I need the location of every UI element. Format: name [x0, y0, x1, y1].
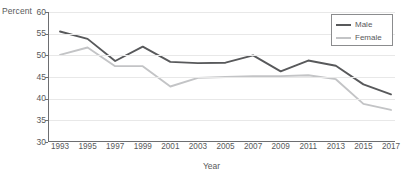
y-axis-tick-label: 40	[0, 94, 46, 103]
x-axis-tick-label: 2009	[272, 143, 290, 151]
legend-swatch-icon	[336, 24, 351, 26]
legend-label: Female	[355, 34, 382, 42]
legend-item[interactable]: Male	[336, 18, 388, 31]
legend: MaleFemale	[331, 14, 393, 46]
line-chart: Percent 60555045403530 19931995199719992…	[0, 0, 407, 181]
x-axis-tick-label: 2017	[382, 143, 400, 151]
x-axis-tick-label: 2003	[189, 143, 207, 151]
x-axis-tick-label: 2015	[354, 143, 372, 151]
legend-label: Male	[355, 21, 372, 29]
y-axis-tickmark	[45, 34, 48, 35]
y-axis-tick-label: 60	[0, 8, 46, 17]
y-axis-tick-labels: 60555045403530	[0, 12, 46, 142]
x-axis-tick-label: 1995	[78, 143, 96, 151]
gridline	[49, 120, 395, 121]
x-axis-tick-label: 2013	[327, 143, 345, 151]
y-axis-tickmark	[45, 77, 48, 78]
x-axis-tick-label: 2005	[216, 143, 234, 151]
y-axis-tickmark	[45, 12, 48, 13]
x-axis-title: Year	[0, 161, 407, 171]
x-axis-tick-label: 1997	[106, 143, 124, 151]
y-axis-tick-label: 50	[0, 51, 46, 60]
y-axis-tick-label: 45	[0, 73, 46, 82]
x-axis-tick-label: 2001	[161, 143, 179, 151]
legend-item[interactable]: Female	[336, 31, 388, 44]
x-axis-tick-label: 1999	[134, 143, 152, 151]
y-axis-tick-label: 35	[0, 116, 46, 125]
x-axis-title-text: Year	[203, 161, 220, 171]
y-axis-tick-label: 30	[0, 138, 46, 147]
gridline	[49, 77, 395, 78]
x-axis-tick-labels: 1993199519971999200120032005200720092011…	[48, 143, 395, 157]
x-axis-tick-label: 2011	[299, 143, 317, 151]
legend-swatch-icon	[336, 37, 351, 39]
y-axis-tickmark	[45, 120, 48, 121]
y-axis-tickmark	[45, 55, 48, 56]
gridline	[49, 99, 395, 100]
gridline	[49, 12, 395, 13]
y-axis-tickmark	[45, 99, 48, 100]
gridline	[49, 55, 395, 56]
x-axis-tick-label: 1993	[51, 143, 69, 151]
x-axis-tick-label: 2007	[244, 143, 262, 151]
y-axis-tick-label: 55	[0, 29, 46, 38]
